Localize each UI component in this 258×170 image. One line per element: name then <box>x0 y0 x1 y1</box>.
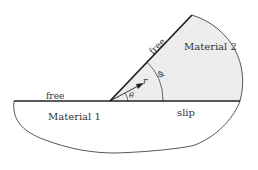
material1-boundary <box>14 101 240 153</box>
label-material1: Material 1 <box>48 111 101 122</box>
material2-region <box>110 15 243 101</box>
label-theta: θ <box>129 91 134 100</box>
wedge-diagram: Material 2 Material 1 free slip free r θ… <box>0 0 258 170</box>
label-free-left: free <box>46 91 64 101</box>
label-r: r <box>143 76 148 86</box>
label-material2: Material 2 <box>184 41 237 52</box>
label-slip: slip <box>177 107 195 118</box>
